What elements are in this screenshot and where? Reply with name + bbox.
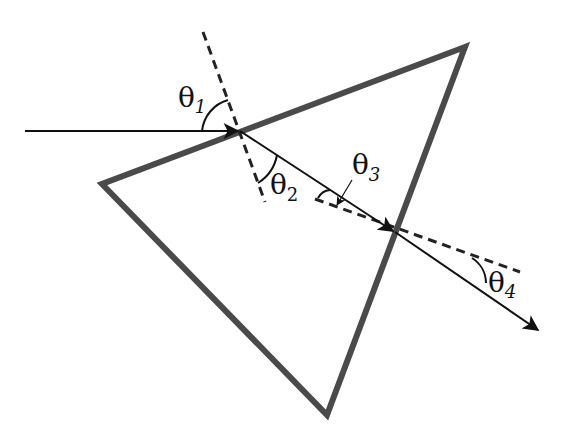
theta2-label: θ2 bbox=[270, 168, 298, 205]
diagram-canvas: θ1 θ2 θ3 θ4 bbox=[0, 0, 563, 443]
theta3-pointer-arrow bbox=[337, 180, 352, 205]
prism-refraction-diagram: θ1 θ2 θ3 θ4 bbox=[0, 0, 563, 443]
emergent-ray bbox=[395, 232, 538, 330]
theta3-label: θ3 bbox=[352, 148, 380, 185]
theta4-label: θ4 bbox=[488, 266, 516, 302]
theta1-label: θ1 bbox=[178, 81, 206, 117]
theta4-arc bbox=[472, 258, 486, 283]
prism-triangle bbox=[102, 47, 465, 415]
entry-normal-line bbox=[203, 32, 265, 202]
theta3-arc bbox=[318, 190, 330, 198]
exit-normal-line bbox=[315, 199, 520, 272]
